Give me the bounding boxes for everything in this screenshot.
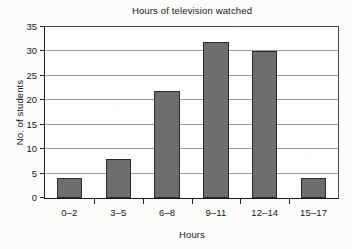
y-tick-label: 25 <box>0 70 37 81</box>
bar <box>301 178 326 198</box>
y-tick-mark <box>40 148 44 149</box>
bar <box>154 91 179 198</box>
y-tick-label: 30 <box>0 45 37 56</box>
y-tick-label: 10 <box>0 143 37 154</box>
y-axis-title: No. of students <box>14 43 25 183</box>
gridline <box>45 124 338 125</box>
chart-title: Hours of television watched <box>44 5 340 16</box>
x-tick-mark <box>240 199 241 204</box>
bar <box>106 159 131 198</box>
y-tick-label: 0 <box>0 192 37 203</box>
x-tick-mark <box>94 199 95 204</box>
x-category-label: 9–11 <box>205 207 226 218</box>
y-tick-mark <box>40 173 44 174</box>
gridline <box>45 99 338 100</box>
gridline <box>45 50 338 51</box>
y-tick-mark <box>40 99 44 100</box>
y-tick-mark <box>40 50 44 51</box>
x-axis-title: Hours <box>44 229 340 240</box>
y-tick-mark <box>40 197 44 198</box>
x-category-label: 3–5 <box>110 207 126 218</box>
x-tick-mark <box>289 199 290 204</box>
y-tick-mark <box>40 75 44 76</box>
y-tick-mark <box>40 26 44 27</box>
x-tick-mark <box>143 199 144 204</box>
x-category-label: 15–17 <box>300 207 327 218</box>
x-category-label: 0–2 <box>61 207 77 218</box>
y-tick-mark <box>40 124 44 125</box>
y-tick-label: 20 <box>0 94 37 105</box>
x-category-label: 6–8 <box>159 207 175 218</box>
x-category-label: 12–14 <box>251 207 278 218</box>
x-tick-mark <box>192 199 193 204</box>
plot-area <box>44 26 339 199</box>
gridline <box>45 148 338 149</box>
bar <box>252 51 277 198</box>
y-tick-label: 35 <box>0 21 37 32</box>
bar <box>203 42 228 198</box>
gridline <box>45 173 338 174</box>
y-tick-label: 5 <box>0 168 37 179</box>
gridline <box>45 75 338 76</box>
y-tick-label: 15 <box>0 119 37 130</box>
bar <box>57 178 82 198</box>
bar-chart-figure: Hours of television watched No. of stude… <box>0 0 352 249</box>
